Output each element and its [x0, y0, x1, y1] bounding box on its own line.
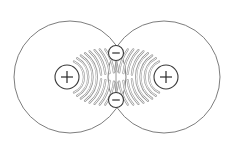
charges [55, 46, 178, 108]
field-boundary-circles [14, 21, 220, 133]
charge-diagram [0, 0, 230, 142]
left-positive-charge [55, 65, 79, 89]
right-positive-charge [154, 65, 178, 89]
bottom-negative-charge [109, 93, 124, 108]
top-negative-charge [109, 46, 124, 61]
